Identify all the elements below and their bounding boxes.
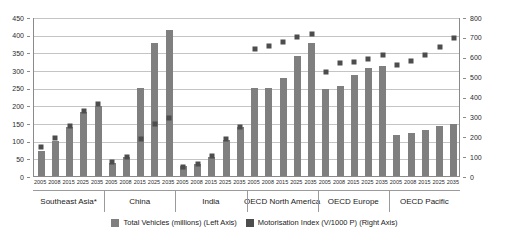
x-tick-label-year: 2035 xyxy=(304,180,316,186)
x-tick-label-year: 2015 xyxy=(134,180,146,186)
group-separator xyxy=(389,190,390,212)
y-tick-mark-right xyxy=(463,38,466,39)
marker-motorisation-index xyxy=(67,123,72,128)
x-tick-label-year: 2035 xyxy=(91,180,103,186)
y-tick-mark-left xyxy=(27,18,30,19)
marker-motorisation-index xyxy=(110,159,115,164)
chart-legend: Total Vehicles (millions) (Left Axis) Mo… xyxy=(0,218,509,227)
y-tick-mark-right xyxy=(463,177,466,178)
group-separator xyxy=(104,190,105,212)
y-tick-label-left: 0 xyxy=(20,174,24,181)
y-tick-mark-right xyxy=(463,117,466,118)
y-tick-label-left: 450 xyxy=(12,15,24,22)
y-tick-mark-right xyxy=(463,18,466,19)
y-tick-mark-left xyxy=(27,142,30,143)
marker-motorisation-index xyxy=(266,44,271,49)
y-tick-label-left: 100 xyxy=(12,138,24,145)
y-axis-right: 0100200300400500600700800 xyxy=(463,18,507,177)
x-tick-label-year: 2015 xyxy=(418,180,430,186)
x-tick-label-year: 2005 xyxy=(319,180,331,186)
x-tick-label-year: 2015 xyxy=(62,180,74,186)
x-tick-label-year: 2035 xyxy=(233,180,245,186)
marker-motorisation-index xyxy=(167,115,172,120)
y-tick-mark-right xyxy=(463,157,466,158)
marker-motorisation-index xyxy=(451,36,456,41)
x-tick-label-year: 2008 xyxy=(119,180,131,186)
group-separator xyxy=(318,190,319,212)
y-tick-label-right: 500 xyxy=(470,74,482,81)
y-tick-mark-right xyxy=(463,137,466,138)
group-label-southeast-asia: Southeast Asia* xyxy=(33,190,104,212)
marker-motorisation-index xyxy=(409,59,414,64)
y-tick-mark-left xyxy=(27,89,30,90)
y-tick-label-right: 0 xyxy=(470,174,474,181)
x-tick-label-year: 2025 xyxy=(361,180,373,186)
marker-motorisation-index xyxy=(224,137,229,142)
y-tick-mark-left xyxy=(27,159,30,160)
markers-layer xyxy=(34,18,459,176)
x-tick-label-year: 2005 xyxy=(105,180,117,186)
y-tick-label-right: 400 xyxy=(470,94,482,101)
y-tick-mark-left xyxy=(27,106,30,107)
group-label-india: India xyxy=(175,190,246,212)
y-tick-label-right: 800 xyxy=(470,15,482,22)
group-label-oecd-pacific: OECD Pacific xyxy=(389,190,460,212)
plot-area xyxy=(33,18,460,177)
group-separator xyxy=(175,190,176,212)
marker-motorisation-index xyxy=(181,165,186,170)
y-tick-label-left: 250 xyxy=(12,85,24,92)
x-axis-group-labels: Southeast Asia*ChinaIndiaOECD North Amer… xyxy=(33,190,460,212)
legend-label-motorisation-index: Motorisation Index (V/1000 P) (Right Axi… xyxy=(258,218,398,227)
group-separator xyxy=(247,190,248,212)
marker-motorisation-index xyxy=(380,53,385,58)
y-tick-label-right: 300 xyxy=(470,114,482,121)
marker-motorisation-index xyxy=(81,108,86,113)
y-tick-mark-right xyxy=(463,98,466,99)
y-tick-label-right: 700 xyxy=(470,34,482,41)
marker-motorisation-index xyxy=(252,46,257,51)
y-tick-label-right: 600 xyxy=(470,54,482,61)
x-tick-label-year: 2025 xyxy=(148,180,160,186)
x-tick-label-year: 2008 xyxy=(262,180,274,186)
y-tick-label-left: 350 xyxy=(12,50,24,57)
x-tick-label-year: 2008 xyxy=(333,180,345,186)
y-tick-label-left: 150 xyxy=(12,121,24,128)
marker-motorisation-index xyxy=(352,59,357,64)
marker-motorisation-index xyxy=(124,154,129,159)
x-tick-label-year: 2025 xyxy=(219,180,231,186)
x-tick-label-year: 2008 xyxy=(404,180,416,186)
marker-motorisation-index xyxy=(423,53,428,58)
x-tick-label-year: 2035 xyxy=(162,180,174,186)
x-tick-label-year: 2015 xyxy=(276,180,288,186)
marker-motorisation-index xyxy=(437,45,442,50)
x-tick-label-year: 2025 xyxy=(290,180,302,186)
marker-motorisation-index xyxy=(366,56,371,61)
marker-motorisation-index xyxy=(394,62,399,67)
x-tick-label-year: 2005 xyxy=(390,180,402,186)
x-tick-label-year: 2008 xyxy=(48,180,60,186)
x-tick-label-year: 2005 xyxy=(34,180,46,186)
y-tick-label-left: 400 xyxy=(12,32,24,39)
legend-item-total-vehicles: Total Vehicles (millions) (Left Axis) xyxy=(111,218,236,227)
motorisation-chart: 050100150200250300350400450 010020030040… xyxy=(0,0,509,244)
marker-motorisation-index xyxy=(152,121,157,126)
x-tick-label-year: 2035 xyxy=(447,180,459,186)
marker-motorisation-index xyxy=(281,40,286,45)
y-tick-mark-left xyxy=(27,53,30,54)
marker-motorisation-index xyxy=(323,69,328,74)
marker-motorisation-index xyxy=(338,61,343,66)
y-tick-label-left: 50 xyxy=(16,156,24,163)
x-tick-label-year: 2025 xyxy=(77,180,89,186)
y-tick-mark-left xyxy=(27,71,30,72)
legend-item-motorisation-index: Motorisation Index (V/1000 P) (Right Axi… xyxy=(246,218,398,227)
group-label-oecd-europe: OECD Europe xyxy=(318,190,389,212)
x-tick-label-year: 2005 xyxy=(247,180,259,186)
marker-motorisation-index xyxy=(96,102,101,107)
marker-motorisation-index xyxy=(39,144,44,149)
y-tick-label-right: 200 xyxy=(470,134,482,141)
legend-bar-swatch-icon xyxy=(111,219,119,227)
y-tick-mark-left xyxy=(27,124,30,125)
marker-motorisation-index xyxy=(295,34,300,39)
y-tick-mark-right xyxy=(463,78,466,79)
y-tick-mark-left xyxy=(27,36,30,37)
